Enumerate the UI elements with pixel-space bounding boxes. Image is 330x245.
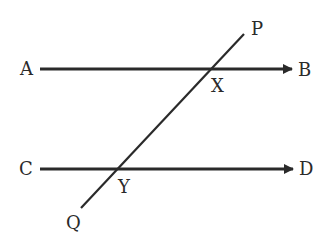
transversal-pq — [81, 34, 244, 208]
parallel-lines-diagram: A B C D P Q X Y — [0, 0, 330, 245]
label-c: C — [19, 158, 33, 179]
label-d: D — [299, 158, 313, 179]
label-b: B — [298, 59, 311, 80]
label-p: P — [251, 18, 263, 39]
label-a: A — [19, 58, 34, 79]
label-q: Q — [66, 212, 81, 233]
label-x: X — [211, 75, 224, 96]
label-y: Y — [117, 176, 131, 197]
